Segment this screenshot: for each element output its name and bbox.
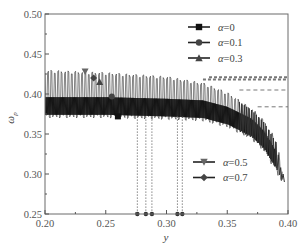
y-tick-label: 0.25	[24, 209, 42, 220]
y-tick-label: 0.35	[24, 129, 42, 140]
legend-item: α=0.7	[193, 172, 248, 183]
svg-text:α=0.7: α=0.7	[223, 172, 248, 183]
vertical-reference-lines	[135, 116, 184, 216]
marker-circle	[109, 93, 115, 99]
x-tick-label: 0.35	[218, 218, 236, 229]
x-tick-label: 0.40	[279, 218, 297, 229]
marker-square	[115, 113, 121, 119]
x-tick-label: 0.30	[157, 218, 175, 229]
legend-top: α=0α=0.1α=0.3	[188, 22, 243, 64]
legend-item: α=0.1	[188, 37, 243, 48]
legend-item: α=0	[188, 22, 235, 33]
svg-text:ωp: ωp	[4, 112, 19, 124]
chart: 0.200.250.300.350.40 0.250.300.350.400.4…	[0, 0, 307, 249]
svg-text:α=0: α=0	[218, 22, 235, 33]
x-tick-label: 0.20	[36, 218, 54, 229]
legend-item: α=0.5	[193, 157, 248, 168]
data-band	[45, 70, 284, 182]
y-tick-label: 0.40	[24, 89, 42, 100]
y-tick-label: 0.30	[24, 169, 42, 180]
svg-text:α=0.3: α=0.3	[218, 53, 243, 64]
x-tick-label: 0.25	[97, 218, 115, 229]
x-axis-ticks: 0.200.250.300.350.40	[36, 210, 297, 229]
svg-text:α=0.1: α=0.1	[218, 37, 243, 48]
y-tick-label: 0.45	[24, 49, 42, 60]
legend-bottom: α=0.5α=0.7	[193, 157, 248, 184]
legend-item: α=0.3	[188, 53, 243, 64]
svg-text:α=0.5: α=0.5	[223, 157, 248, 168]
x-axis-title: y	[163, 231, 169, 243]
y-tick-label: 0.50	[24, 9, 42, 20]
y-axis-title: ωp	[4, 112, 19, 124]
